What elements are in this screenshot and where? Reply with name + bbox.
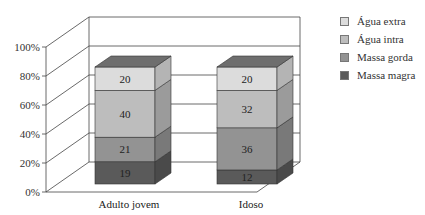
legend-label: Água intra bbox=[357, 33, 404, 45]
depth-gridline bbox=[46, 162, 89, 192]
chart-legend: Água extra Água intra Massa gorda Massa … bbox=[340, 12, 415, 84]
data-label: 32 bbox=[242, 103, 253, 115]
data-label: 20 bbox=[120, 73, 132, 85]
y-tick-label: 80% bbox=[20, 70, 40, 82]
x-category-label: Idoso bbox=[239, 198, 264, 210]
legend-item-agua-extra: Água extra bbox=[340, 12, 415, 30]
y-tick-label: 0% bbox=[25, 186, 40, 198]
y-tick-label: 100% bbox=[14, 41, 40, 53]
y-tick-label: 20% bbox=[20, 157, 40, 169]
data-label: 20 bbox=[242, 73, 254, 85]
legend-swatch-icon bbox=[340, 35, 349, 44]
depth-gridline bbox=[46, 75, 89, 105]
data-label: 36 bbox=[242, 143, 254, 155]
legend-item-massa-magra: Massa magra bbox=[340, 66, 415, 84]
bar-idoso: 12363220 bbox=[217, 56, 293, 184]
data-label: 21 bbox=[120, 143, 131, 155]
depth-gridline bbox=[46, 46, 89, 76]
legend-swatch-icon bbox=[340, 53, 349, 62]
depth-gridline bbox=[46, 17, 89, 47]
y-tick-label: 40% bbox=[20, 128, 40, 140]
data-label: 12 bbox=[242, 171, 253, 183]
depth-gridline bbox=[46, 104, 89, 134]
data-label: 40 bbox=[120, 108, 132, 120]
legend-label: Massa magra bbox=[357, 69, 415, 81]
legend-swatch-icon bbox=[340, 17, 349, 26]
legend-swatch-icon bbox=[340, 71, 349, 80]
legend-item-massa-gorda: Massa gorda bbox=[340, 48, 415, 66]
x-category-label: Adulto jovem bbox=[99, 198, 160, 210]
y-tick-label: 60% bbox=[20, 99, 40, 111]
bar-adulto-jovem: 19214020 bbox=[95, 56, 171, 184]
depth-gridline bbox=[46, 133, 89, 163]
legend-label: Massa gorda bbox=[357, 51, 413, 63]
data-label: 19 bbox=[120, 167, 132, 179]
legend-item-agua-intra: Água intra bbox=[340, 30, 415, 48]
legend-label: Água extra bbox=[357, 15, 406, 27]
